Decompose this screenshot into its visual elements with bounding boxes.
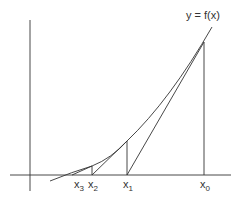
label-x0: x0: [200, 178, 211, 193]
tangent-at-x2: [72, 166, 92, 175]
curve-label: y = f(x): [186, 9, 220, 21]
newton-method-diagram: y = f(x) x3 x2 x1 x0: [0, 0, 241, 204]
tangent-at-x1: [92, 141, 127, 175]
label-x3: x3: [74, 178, 85, 193]
tangent-at-x0: [127, 42, 204, 175]
function-curve: [50, 27, 212, 181]
label-x2: x2: [88, 178, 99, 193]
label-x1: x1: [123, 178, 134, 193]
